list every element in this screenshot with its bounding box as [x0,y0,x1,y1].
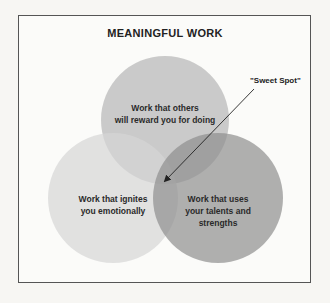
label-talents: Work that uses your talents and strength… [176,193,260,229]
label-ignites: Work that ignites you emotionally [68,193,158,217]
diagram-title: MEANINGFUL WORK [0,27,330,39]
sweet-spot-label: "Sweet Spot" [250,76,301,85]
label-reward: Work that others will reward you for doi… [105,102,225,126]
venn-diagram [0,0,330,303]
